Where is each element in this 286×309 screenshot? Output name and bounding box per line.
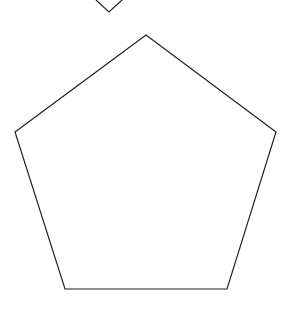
diamond-shape-partial xyxy=(96,0,122,12)
pentagon-shape xyxy=(15,35,276,289)
diagram-canvas xyxy=(0,0,286,309)
